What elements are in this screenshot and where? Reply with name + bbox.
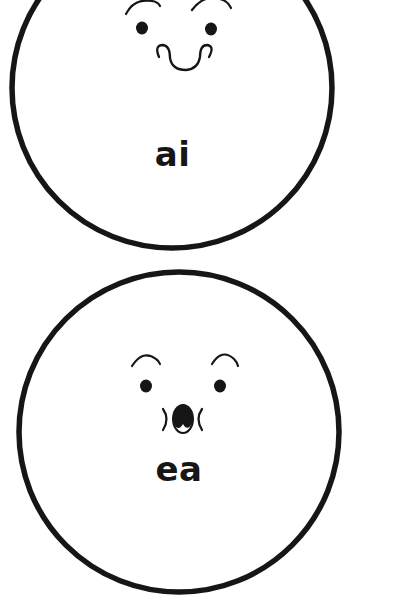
worksheet-page: ai ea [0,0,401,607]
card-label-ea: ea [0,452,358,486]
right-eye-dot-ea [214,380,226,393]
face-card-ea[interactable] [0,0,401,607]
left-eye-dot-ea [140,380,152,393]
